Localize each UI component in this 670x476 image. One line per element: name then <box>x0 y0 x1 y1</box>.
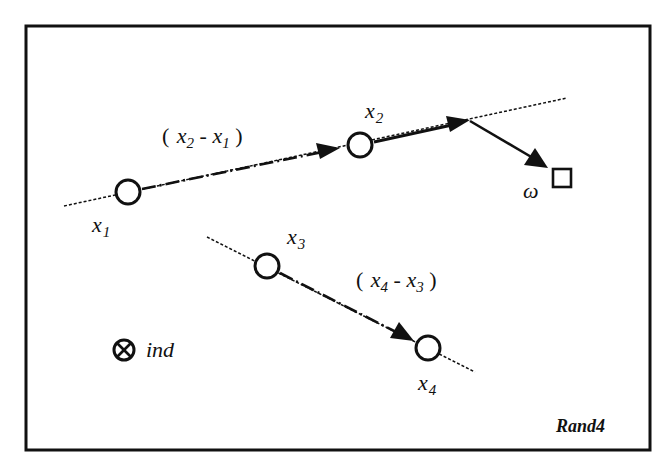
point-x2 <box>348 133 372 157</box>
label-omega: ω <box>523 178 539 203</box>
arrowhead-icon <box>446 116 470 132</box>
label-x1: x1 <box>91 212 110 240</box>
label-x3: x3 <box>286 224 305 252</box>
circled-x-icon <box>114 340 134 360</box>
point-x3 <box>255 254 279 278</box>
vector-to-omega <box>470 121 533 158</box>
rand4-diagram: x1 x2 x3 x4 ( x2 - x1 ) ( x4 - x3 ) ω in… <box>0 0 670 476</box>
arrowhead-icon <box>524 148 548 168</box>
label-x2-minus-x1: ( x2 - x1 ) <box>162 123 243 153</box>
label-ind: ind <box>146 337 175 362</box>
label-x4-minus-x3: ( x4 - x3 ) <box>356 267 437 297</box>
vector-scaled-step <box>374 125 452 142</box>
diagram-tag: Rand4 <box>555 416 605 436</box>
target-omega-square-icon <box>553 169 571 187</box>
label-x4: x4 <box>417 370 437 398</box>
vector-x2-minus-x1 <box>142 152 322 189</box>
label-x2: x2 <box>364 98 384 126</box>
diagram-frame <box>26 26 650 450</box>
point-x1 <box>116 180 140 204</box>
point-x4 <box>416 336 440 360</box>
arrowhead-icon <box>316 143 340 159</box>
